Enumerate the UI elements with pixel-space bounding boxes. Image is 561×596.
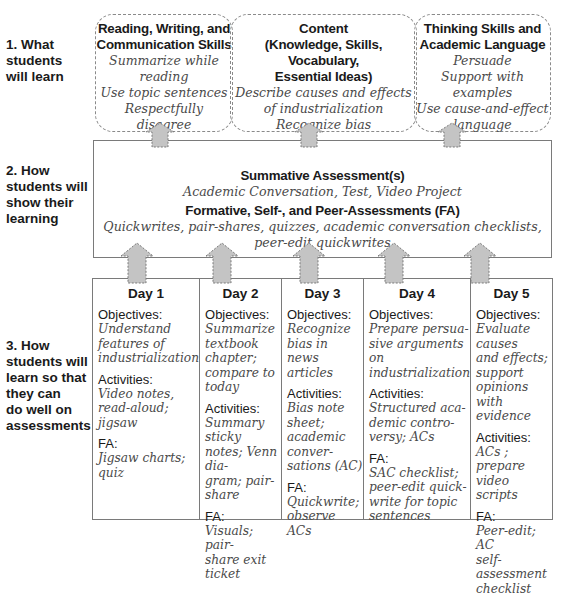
day-column-5: Day 5 Objectives: Evaluate causes and ef… (471, 279, 552, 519)
box-title: (Knowledge, Skills, Vocabulary, (231, 37, 416, 69)
arrow-up-icon (204, 242, 240, 284)
day-title: Day 4 (364, 285, 470, 303)
label-line: 2. How (6, 163, 88, 179)
text-line: ACs ; prepare (476, 445, 552, 474)
text-line: Peer-edit; AC (476, 524, 552, 553)
text-line: with evidence (476, 395, 552, 424)
activities-text: Bias note sheet; academic conver- sation… (287, 401, 363, 474)
activities-text: Video notes, read-aloud; jigsaw (98, 387, 199, 431)
objectives-label: Objectives: (205, 307, 281, 322)
fa-label: FA: (476, 509, 552, 524)
label-line: do well on (6, 402, 91, 418)
objectives-text: Evaluate causes and effects; support opi… (476, 322, 552, 424)
text-line: Summary sticky (205, 416, 281, 445)
text-line: sive arguments on (369, 337, 470, 366)
day-title: Day 1 (93, 285, 199, 303)
day-column-3: Day 3 Objectives: Recognize bias in news… (282, 279, 364, 519)
box-item: of industrialization (231, 101, 416, 117)
activities-text: ACs ; prepare video scripts (476, 445, 552, 503)
label-line: students (6, 53, 64, 69)
label-line: will learn (6, 69, 64, 85)
daily-plan-table: Day 1 Objectives: Understand features of… (92, 278, 553, 520)
fa-label: FA: (205, 509, 281, 524)
text-line: quiz (98, 466, 199, 481)
text-line: gram; pair-share (205, 474, 281, 503)
fa-text: SAC checklist; peer-edit quick- write fo… (369, 466, 470, 524)
box-item: Support with examples (415, 69, 550, 101)
label-line: 3. How (6, 338, 91, 354)
text-line: Summarize (205, 322, 281, 337)
label-line: assessments (6, 418, 91, 434)
box-item: Use topic sentences (96, 85, 232, 101)
text-line: self-assessment (476, 553, 552, 582)
text-line: peer-edit quick- (369, 480, 470, 495)
box-title: Essential Ideas) (231, 69, 416, 85)
text-line: industrialization (98, 351, 199, 366)
fa-text: Peer-edit; AC self-assessment checklist (476, 524, 552, 596)
text-line: Recognize bias in (287, 322, 363, 351)
label-line: students will (6, 354, 91, 370)
text-line: share exit ticket (205, 553, 281, 582)
arrow-up-icon (376, 242, 412, 284)
text-line: news articles (287, 351, 363, 380)
text-line: notes; Venn dia- (205, 445, 281, 474)
label-line: learn so that (6, 370, 91, 386)
box-item: Use cause-and-effect (415, 101, 550, 117)
text-line: Evaluate causes (476, 322, 552, 351)
arrow-up-icon (293, 122, 325, 148)
objectives-text: Summarize textbook chapter; compare to t… (205, 322, 281, 395)
learning-box-reading-writing: Reading, Writing, and Communication Skil… (95, 14, 233, 132)
activities-label: Activities: (98, 372, 199, 387)
text-line: read-aloud; (98, 401, 199, 416)
objectives-text: Understand features of industrialization (98, 322, 199, 366)
fa-text: Quickwrite; observe ACs (287, 495, 363, 539)
fa-label: FA: (98, 436, 199, 451)
box-title: Thinking Skills and (415, 21, 550, 37)
learning-box-thinking-skills: Thinking Skills and Academic Language Pe… (414, 14, 551, 132)
text-line: checklist (476, 582, 552, 596)
box-item: Summarize while reading (96, 53, 232, 85)
text-line: industrialization (369, 366, 470, 381)
summative-title: Summative Assessment(s) (94, 168, 551, 184)
activities-label: Activities: (476, 430, 552, 445)
arrow-up-icon (291, 242, 327, 284)
learning-box-content: Content (Knowledge, Skills, Vocabulary, … (230, 14, 417, 132)
text-line: sentences (369, 509, 470, 524)
activities-text: Structured aca- demic contro- versy; ACs (369, 401, 470, 445)
label-line: 1. What (6, 37, 64, 53)
fa-text: Jigsaw charts; quiz (98, 451, 199, 480)
text-line: compare to (205, 366, 281, 381)
text-line: Bias note sheet; (287, 401, 363, 430)
box-title: Reading, Writing, and (96, 21, 232, 37)
box-title: Communication Skills (96, 37, 232, 53)
objectives-label: Objectives: (369, 307, 470, 322)
text-line: academic conver- (287, 430, 363, 459)
text-line: Visuals; pair- (205, 524, 281, 553)
label-line: learning (6, 211, 88, 227)
assessment-box: Summative Assessment(s) Academic Convers… (93, 140, 552, 258)
label-line: students will (6, 179, 88, 195)
text-line: versy; ACs (369, 430, 470, 445)
text-line: Jigsaw charts; (98, 451, 199, 466)
text-line: Understand (98, 322, 199, 337)
activities-label: Activities: (287, 386, 363, 401)
objectives-text: Recognize bias in news articles (287, 322, 363, 380)
objectives-label: Objectives: (98, 307, 199, 322)
summative-text: Academic Conversation, Test, Video Proje… (94, 184, 551, 200)
text-line: features of (98, 337, 199, 352)
text-line: observe ACs (287, 509, 363, 538)
text-line: Quickwrite; (287, 495, 363, 510)
day-column-2: Day 2 Objectives: Summarize textbook cha… (200, 279, 282, 519)
day-title: Day 5 (471, 285, 552, 303)
box-title: Academic Language (415, 37, 550, 53)
text-line: demic contro- (369, 416, 470, 431)
text-line: Prepare persua- (369, 322, 470, 337)
row-label-how-students-learn: 3. How students will learn so that they … (6, 338, 91, 434)
label-line: they can (6, 386, 91, 402)
arrow-up-icon (436, 122, 468, 148)
activities-label: Activities: (369, 386, 470, 401)
arrow-up-icon (119, 242, 155, 284)
objectives-label: Objectives: (476, 307, 552, 322)
fa-text: Visuals; pair- share exit ticket (205, 524, 281, 582)
text-line: Structured aca- (369, 401, 470, 416)
